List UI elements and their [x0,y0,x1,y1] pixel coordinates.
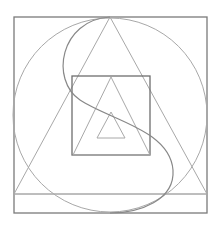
s-curve [63,17,173,213]
geometric-diagram [0,0,220,227]
large-triangle [14,17,207,194]
